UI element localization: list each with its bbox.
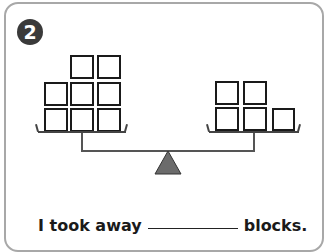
block	[97, 108, 121, 132]
sentence-prefix: I took away	[38, 216, 142, 235]
block	[215, 107, 239, 131]
fulcrum-triangle-icon	[154, 151, 182, 175]
block	[44, 108, 68, 132]
right-post	[253, 133, 255, 151]
answer-blank[interactable]	[148, 228, 238, 229]
block	[243, 107, 267, 131]
sentence-suffix: blocks.	[244, 216, 308, 235]
block	[44, 82, 68, 106]
block	[215, 81, 239, 105]
left-post	[81, 133, 83, 151]
answer-sentence: I took awayblocks.	[38, 216, 307, 235]
block	[243, 81, 267, 105]
block	[97, 55, 121, 79]
block	[97, 82, 121, 106]
block	[272, 108, 295, 131]
block	[70, 82, 94, 106]
block	[70, 55, 94, 79]
block	[70, 108, 94, 132]
problem-number-badge: 2	[17, 19, 43, 45]
